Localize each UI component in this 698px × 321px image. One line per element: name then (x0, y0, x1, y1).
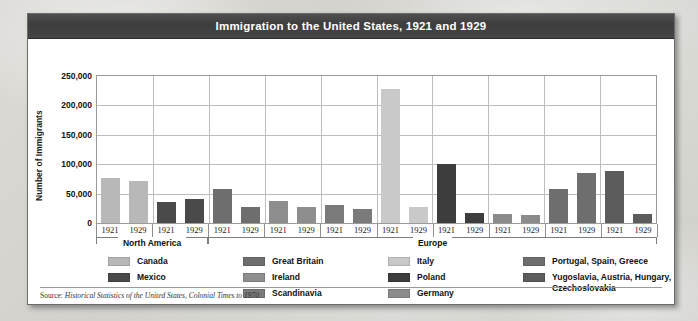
source-lead: Source: (40, 291, 65, 300)
legend-item: Portugal, Spain, Greece (523, 256, 676, 269)
bar (605, 171, 624, 223)
bar-slot (97, 76, 125, 223)
legend-column: CanadaMexico (108, 256, 168, 288)
legend-swatch (388, 257, 410, 266)
legend-swatch (243, 257, 265, 266)
bar (381, 89, 400, 223)
bar (577, 173, 596, 223)
bar (157, 202, 176, 223)
bar-slot (432, 76, 460, 223)
bar (325, 205, 344, 223)
legend-item: Mexico (108, 272, 168, 285)
bar-slot (377, 76, 405, 223)
chart-title: Immigration to the United States, 1921 a… (216, 20, 487, 32)
y-axis-ticks: 050,000100,000150,000200,000250,000 (46, 75, 94, 224)
bar (493, 214, 512, 223)
chart-legend: CanadaMexicoGreat BritainIrelandScandina… (28, 256, 674, 308)
source-divider (40, 287, 662, 288)
bar-slot (349, 76, 377, 223)
bar (465, 213, 484, 223)
bar (101, 178, 120, 223)
bar-slot (265, 76, 293, 223)
bar (633, 214, 652, 223)
bracket-left-rule (96, 237, 118, 244)
chart-title-bar: Immigration to the United States, 1921 a… (28, 14, 674, 39)
bar-series (97, 76, 656, 223)
bar (297, 207, 316, 223)
bar (549, 189, 568, 223)
y-axis-tick-label: 150,000 (61, 130, 92, 140)
legend-label: Ireland (272, 272, 300, 283)
bar (437, 164, 456, 223)
legend-item: Ireland (243, 272, 324, 285)
legend-label: Canada (137, 256, 168, 267)
bar (353, 209, 372, 223)
region-label: Europe (413, 238, 452, 248)
legend-label: Great Britain (272, 256, 324, 267)
y-axis-tick-label: 250,000 (61, 71, 92, 81)
source-citation: Historical Statistics of the United Stat… (65, 291, 259, 300)
legend-swatch (523, 273, 545, 282)
bar-slot (572, 76, 600, 223)
legend-swatch (388, 273, 410, 282)
bar-slot (516, 76, 544, 223)
bracket-left-rule (208, 237, 413, 244)
bar (185, 199, 204, 223)
chart-plot-area: Number of Immigrants 050,000100,000150,0… (28, 39, 674, 235)
region-brackets: North AmericaEurope (28, 235, 674, 252)
bracket-right-rule (186, 237, 208, 244)
legend-item: Great Britain (243, 256, 324, 269)
bracket-right-rule (452, 237, 657, 244)
legend-swatch (108, 257, 130, 266)
legend-label: Mexico (137, 272, 166, 283)
bar-slot (460, 76, 488, 223)
region-bracket: Europe (208, 235, 657, 251)
source-row: Source: Historical Statistics of the Uni… (28, 287, 674, 300)
bar-slot (153, 76, 181, 223)
legend-swatch (243, 273, 265, 282)
bar-slot (237, 76, 265, 223)
bar-slot (125, 76, 153, 223)
bar-slot (209, 76, 237, 223)
bar (213, 189, 232, 223)
bar-slot (404, 76, 432, 223)
bar (241, 207, 260, 223)
bar (269, 201, 288, 223)
region-label: North America (118, 238, 186, 248)
y-axis-tick-label: 0 (87, 218, 92, 228)
legend-label: Italy (417, 256, 434, 267)
legend-item: Italy (388, 256, 454, 269)
region-bracket: North America (96, 235, 208, 251)
y-axis-tick-label: 50,000 (66, 189, 92, 199)
chart-panel: Immigration to the United States, 1921 a… (27, 13, 675, 305)
y-axis-tick-label: 200,000 (61, 100, 92, 110)
legend-label: Portugal, Spain, Greece (552, 256, 648, 267)
bar (409, 207, 428, 223)
bar (129, 181, 148, 223)
bar-slot (600, 76, 628, 223)
legend-swatch (108, 273, 130, 282)
source-note: Source: Historical Statistics of the Uni… (40, 291, 662, 300)
legend-label: Poland (417, 272, 445, 283)
bar-slot (544, 76, 572, 223)
page-background: Immigration to the United States, 1921 a… (0, 0, 698, 321)
legend-item: Canada (108, 256, 168, 269)
bar (521, 215, 540, 223)
bar-slot (293, 76, 321, 223)
legend-swatch (523, 257, 545, 266)
legend-item: Poland (388, 272, 454, 285)
bar-slot (181, 76, 209, 223)
bar-slot (628, 76, 656, 223)
bar-slot (321, 76, 349, 223)
y-axis-tick-label: 100,000 (61, 159, 92, 169)
bar-slot (488, 76, 516, 223)
plot-canvas (96, 75, 657, 224)
